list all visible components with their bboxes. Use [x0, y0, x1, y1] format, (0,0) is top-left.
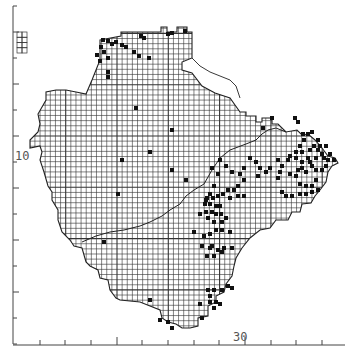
- record-dot: [288, 154, 292, 158]
- record-dot: [302, 138, 306, 142]
- record-dot: [308, 160, 312, 164]
- record-dot: [258, 166, 262, 170]
- record-dot: [312, 144, 316, 148]
- x-axis-label: 30: [233, 330, 247, 344]
- record-dot: [184, 178, 188, 182]
- record-dot: [280, 164, 284, 168]
- record-dot: [304, 170, 308, 174]
- record-dot: [301, 132, 305, 136]
- record-dot: [120, 158, 124, 162]
- record-dot: [306, 132, 310, 136]
- record-dot: [120, 43, 124, 47]
- record-dot: [300, 160, 304, 164]
- record-dot: [320, 152, 324, 156]
- record-dot: [116, 192, 120, 196]
- record-dot: [158, 318, 162, 322]
- record-dot: [124, 45, 128, 49]
- record-dot: [102, 240, 106, 244]
- record-dot: [208, 232, 212, 236]
- record-dot: [95, 53, 99, 57]
- record-dot: [276, 158, 280, 162]
- record-dot: [218, 302, 222, 306]
- record-dot: [226, 188, 230, 192]
- record-dot: [220, 250, 224, 254]
- record-dot: [256, 174, 260, 178]
- record-dot: [310, 164, 314, 168]
- record-dot: [248, 156, 252, 160]
- record-dot: [218, 204, 222, 208]
- record-dot: [236, 194, 240, 198]
- record-dot: [220, 220, 224, 224]
- y-axis-label: 10: [15, 149, 29, 163]
- record-dot: [254, 160, 258, 164]
- record-dot: [198, 302, 202, 306]
- record-dot: [205, 196, 209, 200]
- record-dot: [298, 192, 302, 196]
- record-dot: [294, 156, 298, 160]
- record-dot: [242, 194, 246, 198]
- record-dot: [205, 254, 209, 258]
- record-dot: [101, 38, 105, 42]
- record-dot: [170, 326, 174, 330]
- record-dot: [226, 284, 230, 288]
- record-dot: [214, 228, 218, 232]
- record-dot: [222, 246, 226, 250]
- record-dot: [211, 196, 215, 200]
- record-dot: [132, 50, 136, 54]
- record-dot: [220, 228, 224, 232]
- record-dot: [137, 54, 141, 58]
- record-dot: [206, 216, 210, 220]
- record-dot: [328, 152, 332, 156]
- record-dot: [98, 59, 102, 63]
- map-canvas: 10 30: [0, 0, 345, 351]
- record-dot: [210, 210, 214, 214]
- record-dot: [270, 116, 274, 120]
- record-dot: [206, 288, 210, 292]
- record-dot: [318, 144, 322, 148]
- record-dot: [308, 148, 312, 152]
- record-dot: [110, 42, 114, 46]
- record-dot: [214, 300, 218, 304]
- record-dot: [278, 170, 282, 174]
- record-dot: [236, 184, 240, 188]
- record-dot: [232, 188, 236, 192]
- record-dot: [183, 29, 187, 33]
- record-dot: [148, 298, 152, 302]
- record-dot: [114, 40, 118, 44]
- record-dot: [200, 316, 204, 320]
- record-dot: [220, 288, 224, 292]
- record-dot: [170, 168, 174, 172]
- record-dot: [218, 158, 222, 162]
- record-dot: [228, 196, 232, 200]
- record-dot: [322, 156, 326, 160]
- record-dot: [314, 178, 318, 182]
- record-dot: [219, 212, 223, 216]
- record-dot: [296, 168, 300, 172]
- record-dot: [310, 184, 314, 188]
- record-dot: [230, 170, 234, 174]
- record-dot: [324, 164, 328, 168]
- record-dot: [170, 31, 174, 35]
- record-dot: [326, 158, 330, 162]
- record-dot: [212, 306, 216, 310]
- record-dot: [166, 32, 170, 36]
- record-dot: [224, 216, 228, 220]
- record-dot: [294, 174, 298, 178]
- record-dot: [332, 158, 336, 162]
- record-dot: [203, 202, 207, 206]
- record-dot: [286, 158, 290, 162]
- record-dot: [102, 50, 106, 54]
- record-dot: [212, 220, 216, 224]
- record-dot: [293, 116, 297, 120]
- record-dot: [224, 164, 228, 168]
- record-dot: [170, 128, 174, 132]
- record-dot: [316, 188, 320, 192]
- record-dot: [212, 254, 216, 258]
- record-dot: [208, 192, 212, 196]
- record-dot: [147, 56, 151, 60]
- record-dot: [280, 190, 284, 194]
- record-dot: [314, 156, 318, 160]
- distribution-map: 10 30: [0, 0, 345, 351]
- record-dot: [212, 288, 216, 292]
- record-dot: [261, 126, 265, 130]
